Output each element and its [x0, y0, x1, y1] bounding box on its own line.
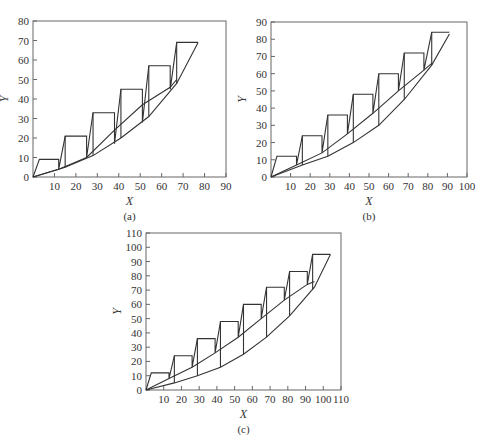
y-tick-label: 0: [137, 384, 143, 396]
x-tick-label: 10: [49, 180, 61, 192]
x-axis-label: X: [364, 194, 373, 208]
plot-frame: [271, 22, 467, 177]
x-tick-label: 80: [422, 180, 434, 192]
x-tick-label: 50: [364, 180, 376, 192]
x-tick-label: 50: [229, 393, 241, 405]
steps: [146, 254, 330, 390]
x-tick-label: 70: [265, 393, 277, 405]
y-tick-label: 50: [256, 85, 268, 97]
y-tick-label: 40: [18, 93, 30, 105]
x-tick-label: 40: [211, 393, 223, 405]
y-tick-label: 10: [131, 370, 143, 382]
y-tick-label: 20: [18, 132, 30, 144]
y-axis-label: Y: [235, 95, 249, 103]
y-tick-label: 0: [262, 171, 268, 183]
equilibrium-curve: [33, 42, 198, 177]
chart-caption: (a): [123, 210, 136, 223]
y-tick-label: 60: [18, 54, 30, 66]
x-tick-label: 70: [403, 180, 415, 192]
chart-caption: (b): [363, 210, 376, 223]
x-tick-label: 90: [442, 180, 454, 192]
chart-c: 1020304050607080901001100102030405060708…: [110, 227, 350, 436]
y-axis-label: Y: [110, 307, 124, 315]
x-tick-label: 40: [113, 180, 125, 192]
y-tick-label: 50: [18, 74, 30, 86]
y-tick-label: 100: [126, 241, 143, 253]
x-axis-label: X: [239, 407, 248, 421]
y-tick-label: 30: [256, 119, 268, 131]
y-tick-label: 70: [131, 284, 143, 296]
x-tick-label: 90: [221, 180, 233, 192]
steps: [33, 42, 198, 177]
x-tick-label: 10: [158, 393, 170, 405]
x-tick-label: 20: [176, 393, 188, 405]
x-tick-label: 30: [92, 180, 104, 192]
y-tick-label: 20: [131, 355, 143, 367]
y-axis-label: Y: [0, 94, 11, 102]
y-tick-label: 60: [256, 68, 268, 80]
chart-b: 1020304050607080901000102030405060708090…: [235, 16, 476, 223]
x-tick-label: 70: [178, 180, 190, 192]
y-tick-label: 20: [256, 137, 268, 149]
x-tick-label: 20: [70, 180, 82, 192]
y-tick-label: 40: [131, 327, 143, 339]
y-tick-label: 110: [126, 227, 143, 239]
x-tick-label: 60: [247, 393, 259, 405]
y-tick-label: 90: [131, 256, 143, 268]
operating-line: [271, 63, 432, 177]
figure-canvas: 10203040506070809001020304050607080XY(a)…: [0, 0, 486, 444]
x-tick-label: 80: [199, 180, 211, 192]
y-tick-label: 60: [131, 298, 143, 310]
y-tick-label: 30: [131, 341, 143, 353]
y-tick-label: 10: [256, 154, 268, 166]
y-tick-label: 80: [131, 270, 143, 282]
x-tick-label: 10: [285, 180, 297, 192]
x-tick-label: 80: [282, 393, 294, 405]
y-tick-label: 70: [256, 50, 268, 62]
x-tick-label: 50: [135, 180, 147, 192]
y-tick-label: 50: [131, 313, 143, 325]
y-tick-label: 0: [24, 171, 30, 183]
x-tick-label: 100: [315, 393, 332, 405]
y-tick-label: 80: [256, 33, 268, 45]
operating-line: [33, 80, 177, 178]
y-tick-label: 70: [18, 35, 30, 47]
x-tick-label: 30: [194, 393, 206, 405]
chart-a: 10203040506070809001020304050607080XY(a): [0, 15, 232, 223]
x-axis-label: X: [125, 194, 134, 208]
x-tick-label: 90: [300, 393, 312, 405]
y-tick-label: 40: [256, 102, 268, 114]
x-tick-label: 100: [459, 180, 476, 192]
steps: [271, 32, 449, 177]
x-tick-label: 30: [324, 180, 336, 192]
x-tick-label: 60: [156, 180, 168, 192]
equilibrium-curve: [271, 34, 449, 177]
x-tick-label: 20: [305, 180, 317, 192]
y-tick-label: 80: [18, 15, 30, 27]
y-tick-label: 10: [18, 152, 30, 164]
chart-caption: (c): [237, 423, 250, 436]
x-tick-label: 40: [344, 180, 356, 192]
x-tick-label: 60: [383, 180, 395, 192]
y-tick-label: 30: [18, 113, 30, 125]
x-tick-label: 110: [333, 393, 350, 405]
y-tick-label: 90: [256, 16, 268, 28]
